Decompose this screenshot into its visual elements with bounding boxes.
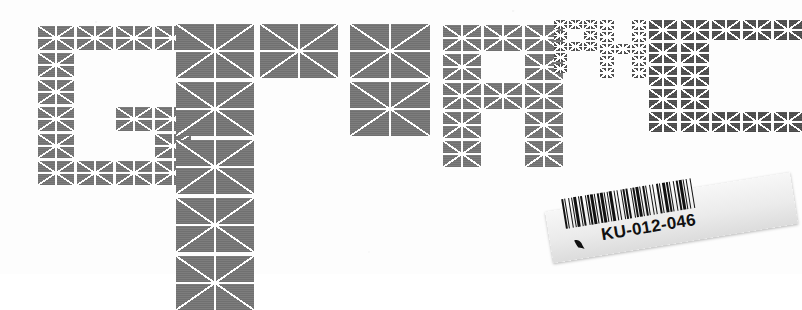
letter-module xyxy=(38,53,74,77)
letter-module xyxy=(632,32,646,42)
letter-module xyxy=(712,20,740,40)
letter-module xyxy=(525,112,563,138)
letter-module xyxy=(38,161,74,185)
letter-module xyxy=(350,82,430,136)
letter-module xyxy=(116,161,152,185)
letter-module xyxy=(77,161,113,185)
letter-module xyxy=(632,20,646,30)
letter-module xyxy=(616,44,630,54)
letter-module xyxy=(554,53,567,62)
letter-module xyxy=(443,112,481,138)
letter-module xyxy=(649,66,677,86)
letter-module xyxy=(649,112,677,132)
letter-module xyxy=(484,25,522,51)
letter-module xyxy=(712,112,740,132)
barcode-label[interactable]: KU-012-046 xyxy=(545,172,798,263)
letter-module xyxy=(681,43,709,63)
letter-module xyxy=(743,112,771,132)
letter-module xyxy=(681,112,709,132)
letter-module xyxy=(649,89,677,109)
letter-module xyxy=(443,83,481,109)
letter-module xyxy=(681,89,709,109)
letter-module xyxy=(584,42,597,51)
letter-module xyxy=(632,56,646,66)
letter-module xyxy=(600,44,614,54)
letter-module xyxy=(38,107,74,131)
letter-module xyxy=(176,140,254,194)
letter-module xyxy=(554,20,567,29)
letter-module xyxy=(554,31,567,40)
letter-module xyxy=(38,80,74,104)
letter-module xyxy=(649,43,677,63)
letter-module xyxy=(743,20,771,40)
letter-module xyxy=(176,198,254,252)
letter-module xyxy=(600,20,614,30)
letter-module xyxy=(584,31,597,40)
letter-module xyxy=(176,82,254,136)
letter-module xyxy=(525,83,563,109)
letter-module xyxy=(569,42,582,51)
letter-module xyxy=(600,68,614,78)
letter-module xyxy=(116,107,152,131)
letter-module xyxy=(443,54,481,80)
checkmark-icon xyxy=(571,231,592,252)
letter-module xyxy=(443,25,481,51)
letter-module xyxy=(632,44,646,54)
letter-module xyxy=(681,20,709,40)
letter-module xyxy=(116,26,152,50)
letter-module xyxy=(443,141,481,167)
letter-module xyxy=(77,26,113,50)
letter-module xyxy=(484,83,522,109)
letter-module xyxy=(554,42,567,51)
letter-module xyxy=(350,24,430,78)
letter-module xyxy=(260,24,338,78)
letter-module xyxy=(584,20,597,29)
letter-module xyxy=(176,256,254,310)
letter-module xyxy=(176,24,254,78)
letter-module xyxy=(632,68,646,78)
letter-module xyxy=(600,32,614,42)
letter-module xyxy=(649,20,677,40)
letter-module xyxy=(38,26,74,50)
letter-module xyxy=(554,64,567,73)
letter-module xyxy=(681,66,709,86)
letter-module xyxy=(569,20,582,29)
letter-module xyxy=(600,56,614,66)
letter-module xyxy=(774,20,802,40)
letter-module xyxy=(38,134,74,158)
letter-module xyxy=(774,112,802,132)
letter-module xyxy=(525,141,563,167)
